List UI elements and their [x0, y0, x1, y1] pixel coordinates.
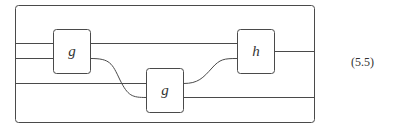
box-g2-label: g — [161, 82, 169, 98]
box-g1-label: g — [68, 43, 76, 59]
wire-g1-g2 — [91, 59, 147, 98]
box-h-label: h — [252, 43, 260, 59]
wire-g2-h — [184, 59, 238, 84]
equation-number: (5.5) — [351, 55, 374, 70]
string-diagram: g g h — [0, 0, 405, 127]
